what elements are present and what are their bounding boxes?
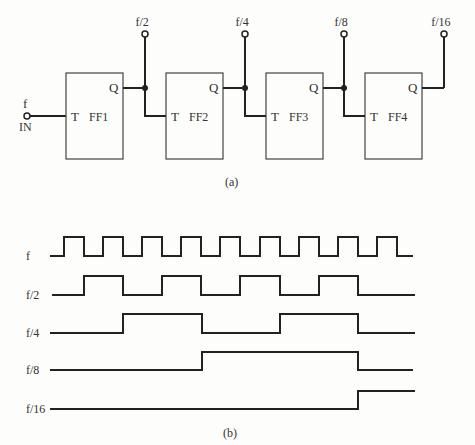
- output-label: f/8: [334, 15, 347, 29]
- signal-label: f/16: [26, 402, 45, 416]
- caption-b: (b): [223, 426, 237, 440]
- circuit-schematic: f IN TFF1QTFF2QTFF3QTFF4Q f/2f/4f/8f/16 …: [19, 15, 451, 189]
- flipflop-ff2: TFF2Q: [166, 73, 223, 159]
- flipflop-ff1: TFF1Q: [66, 73, 123, 159]
- q-output-label: Q: [109, 80, 119, 95]
- waveform-f-2: f/2: [26, 276, 415, 302]
- t-input-label: T: [370, 109, 378, 124]
- signal-label: f: [26, 249, 30, 263]
- q-output-label: Q: [408, 80, 418, 95]
- counter-diagram: f IN TFF1QTFF2QTFF3QTFF4Q f/2f/4f/8f/16 …: [0, 0, 475, 445]
- input-terminal-icon: [24, 113, 30, 119]
- t-input-label: T: [71, 109, 79, 124]
- output-label: f/16: [431, 15, 450, 29]
- timing-diagram: ff/2f/4f/8f/16 (b): [26, 237, 415, 440]
- flipflop-name: FF2: [189, 110, 208, 124]
- signal-label: f/2: [26, 288, 39, 302]
- signal-label: f/8: [26, 363, 39, 377]
- output-terminal-icon: [341, 31, 347, 37]
- output-terminal-icon: [242, 31, 248, 37]
- flipflop-name: FF3: [289, 110, 308, 124]
- q-output-label: Q: [209, 80, 219, 95]
- input-label-in: IN: [19, 120, 32, 134]
- waveform-f-8: f/8: [26, 352, 413, 377]
- output-label: f/4: [235, 15, 248, 29]
- flipflop-ff4: TFF4Q: [365, 73, 422, 159]
- flipflop-ff3: TFF3Q: [266, 73, 323, 159]
- q-output-label: Q: [309, 80, 319, 95]
- output-terminal-icon: [441, 31, 447, 37]
- caption-a: (a): [225, 175, 238, 189]
- flipflop-name: FF4: [388, 110, 407, 124]
- t-input-label: T: [271, 109, 279, 124]
- output-terminal-icon: [142, 31, 148, 37]
- t-input-label: T: [171, 109, 179, 124]
- signal-label: f/4: [26, 326, 39, 340]
- waveform-f-4: f/4: [26, 314, 415, 340]
- output-label: f/2: [135, 15, 148, 29]
- input-label-f: f: [23, 96, 28, 111]
- flipflop-name: FF1: [89, 110, 108, 124]
- waveform-f-16: f/16: [26, 391, 415, 416]
- waveform-f: f: [26, 237, 413, 263]
